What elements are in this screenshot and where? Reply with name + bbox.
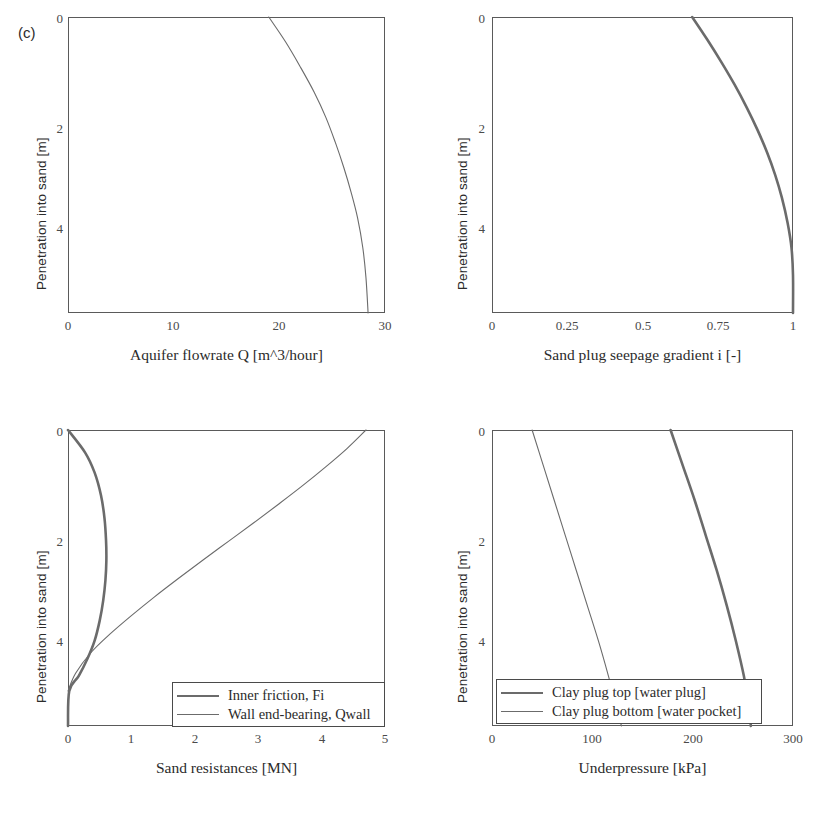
- panel-sand-plug-seepage-gradient: Penetration into sand [m] 0 2 4 0 0.25 0…: [415, 0, 831, 400]
- x-axis-label-0: Aquifer flowrate Q [m^3/hour]: [68, 346, 385, 364]
- plot-curves-2: [0, 413, 415, 813]
- legend-label-wall-end-bearing: Wall end-bearing, Qwall: [228, 705, 371, 724]
- legend-item-0: Inner friction, Fi: [177, 686, 378, 705]
- legend-label-clay-plug-top: Clay plug top [water plug]: [552, 683, 706, 702]
- legend-label-clay-plug-bottom: Clay plug bottom [water pocket]: [552, 702, 741, 721]
- x-tick-0-1: 10: [153, 318, 193, 334]
- x-tick-2-4: 4: [302, 731, 342, 747]
- legend-item-1: Wall end-bearing, Qwall: [177, 705, 378, 724]
- legend-swatch-clay-plug-top: [501, 692, 543, 694]
- x-tick-1-4: 1: [773, 318, 813, 334]
- panel-aquifer-flowrate: (c) Penetration into sand [m] 0 2 4 0 10…: [0, 0, 415, 400]
- x-tick-1-1: 0.25: [547, 318, 587, 334]
- panel-underpressure: Penetration into sand [m] 0 2 4 Clay plu…: [415, 413, 831, 813]
- legend-label-inner-friction: Inner friction, Fi: [228, 686, 324, 705]
- panel-sand-resistances: Penetration into sand [m] 0 2 4 Inner fr…: [0, 413, 415, 813]
- x-tick-2-3: 3: [238, 731, 278, 747]
- series-line-1: [68, 430, 366, 691]
- plot-curves-3: [415, 413, 831, 813]
- x-tick-3-3: 300: [773, 731, 813, 747]
- x-tick-3-1: 100: [572, 731, 612, 747]
- x-tick-1-2: 0.5: [623, 318, 663, 334]
- x-tick-2-0: 0: [48, 731, 88, 747]
- x-axis-label-1: Sand plug seepage gradient i [-]: [492, 346, 793, 364]
- legend-item-0: Clay plug top [water plug]: [501, 683, 755, 702]
- legend-underpressure: Clay plug top [water plug] Clay plug bot…: [496, 679, 762, 724]
- series-line-0: [68, 430, 106, 726]
- x-tick-0-3: 30: [365, 318, 405, 334]
- x-tick-0-2: 20: [259, 318, 299, 334]
- legend-swatch-clay-plug-bottom: [501, 711, 543, 712]
- x-tick-0-0: 0: [48, 318, 88, 334]
- x-tick-2-1: 1: [111, 731, 151, 747]
- legend-sand-resistances: Inner friction, Fi Wall end-bearing, Qwa…: [172, 682, 385, 727]
- x-tick-1-0: 0: [472, 318, 512, 334]
- series-line-0: [269, 17, 368, 313]
- x-tick-2-2: 2: [175, 731, 215, 747]
- x-tick-3-2: 200: [673, 731, 713, 747]
- plot-curves-0: [0, 0, 415, 400]
- x-tick-2-5: 5: [365, 731, 405, 747]
- legend-swatch-inner-friction: [177, 695, 219, 697]
- x-tick-1-3: 0.75: [698, 318, 738, 334]
- x-axis-label-2: Sand resistances [MN]: [68, 759, 385, 777]
- x-axis-label-3: Underpressure [kPa]: [492, 759, 793, 777]
- series-line-0: [692, 17, 793, 313]
- legend-item-1: Clay plug bottom [water pocket]: [501, 702, 755, 721]
- legend-swatch-wall-end-bearing: [177, 714, 219, 715]
- x-tick-3-0: 0: [472, 731, 512, 747]
- plot-curves-1: [415, 0, 831, 400]
